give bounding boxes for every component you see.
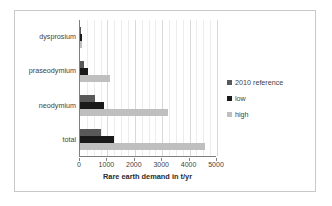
x-tick-label: 5000 xyxy=(208,161,224,168)
legend-swatch-icon xyxy=(227,112,232,117)
bar-group xyxy=(80,61,216,82)
bar xyxy=(80,129,101,136)
chart-legend: 2010 referencelowhigh xyxy=(227,74,313,122)
legend-label: 2010 reference xyxy=(235,78,283,87)
legend-swatch-icon xyxy=(227,80,232,85)
bar xyxy=(80,102,104,109)
bar xyxy=(80,75,110,82)
legend-item: 2010 reference xyxy=(227,74,313,90)
bar xyxy=(80,109,168,116)
x-tick-label: 4000 xyxy=(181,161,197,168)
category-label: neodymium xyxy=(39,102,76,110)
category-label: total xyxy=(62,136,76,144)
x-tick-label: 3000 xyxy=(153,161,169,168)
chart-frame: dysprosiumpraseodymiumneodymiumtotal 010… xyxy=(14,10,316,192)
bar xyxy=(80,143,205,150)
category-label: praseodymium xyxy=(29,67,76,75)
category-label: dysprosium xyxy=(39,33,76,41)
legend-item: high xyxy=(227,106,313,122)
bar xyxy=(80,27,81,34)
bar xyxy=(80,136,114,143)
x-axis-ticks: 010002000300040005000 xyxy=(79,158,217,170)
legend-label: high xyxy=(235,110,249,119)
category-axis-labels: dysprosiumpraseodymiumneodymiumtotal xyxy=(15,20,76,157)
bar xyxy=(80,95,95,102)
bar-group xyxy=(80,95,216,116)
x-tick-label: 2000 xyxy=(126,161,142,168)
bar xyxy=(80,34,82,41)
plot-area xyxy=(79,20,216,157)
gridline-major xyxy=(217,20,218,156)
bar-group xyxy=(80,129,216,150)
bar xyxy=(80,41,82,48)
legend-item: low xyxy=(227,90,313,106)
bar-group xyxy=(80,27,216,48)
x-tick-label: 0 xyxy=(77,161,81,168)
bar xyxy=(80,61,84,68)
legend-swatch-icon xyxy=(227,96,232,101)
x-tick-label: 1000 xyxy=(99,161,115,168)
bar xyxy=(80,68,88,75)
x-axis-title: Rare earth demand in t/yr xyxy=(65,172,230,181)
legend-label: low xyxy=(235,94,246,103)
